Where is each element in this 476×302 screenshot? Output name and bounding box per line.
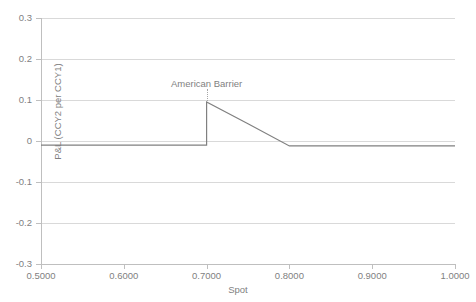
y-tick-label: 0 — [0, 136, 32, 146]
x-axis-title: Spot — [0, 284, 476, 295]
x-tick-mark — [289, 265, 290, 269]
data-series-pl — [41, 18, 455, 264]
x-tick-label: 0.5000 — [11, 271, 71, 281]
x-tick-mark — [124, 265, 125, 269]
x-tick-mark — [41, 265, 42, 269]
y-tick-label: 0.3 — [0, 13, 32, 23]
x-tick-label: 0.8000 — [259, 271, 319, 281]
y-tick-label: 0.2 — [0, 54, 32, 64]
x-tick-label: 0.7000 — [177, 271, 237, 281]
x-tick-mark — [372, 265, 373, 269]
y-tick-label: -0.3 — [0, 259, 32, 269]
y-tick-label: 0.1 — [0, 95, 32, 105]
x-tick-label: 0.9000 — [342, 271, 402, 281]
chart-container: 0.30.20.10-0.1-0.2-0.3 0.50000.60000.700… — [0, 0, 476, 302]
plot-area: P&L (CCY2 per CCY1) — [41, 18, 455, 264]
x-tick-label: 1.0000 — [425, 271, 476, 281]
chart-annotation-label: American Barrier — [147, 78, 267, 89]
x-tick-mark — [207, 265, 208, 269]
y-tick-label: -0.2 — [0, 218, 32, 228]
x-tick-mark — [455, 265, 456, 269]
x-tick-label: 0.6000 — [94, 271, 154, 281]
x-axis-line — [41, 264, 456, 265]
series-line — [41, 102, 455, 146]
y-axis-title: P&L (CCY2 per CCY1) — [52, 42, 63, 182]
y-tick-label: -0.1 — [0, 177, 32, 187]
annotation-leader-line — [207, 89, 208, 101]
